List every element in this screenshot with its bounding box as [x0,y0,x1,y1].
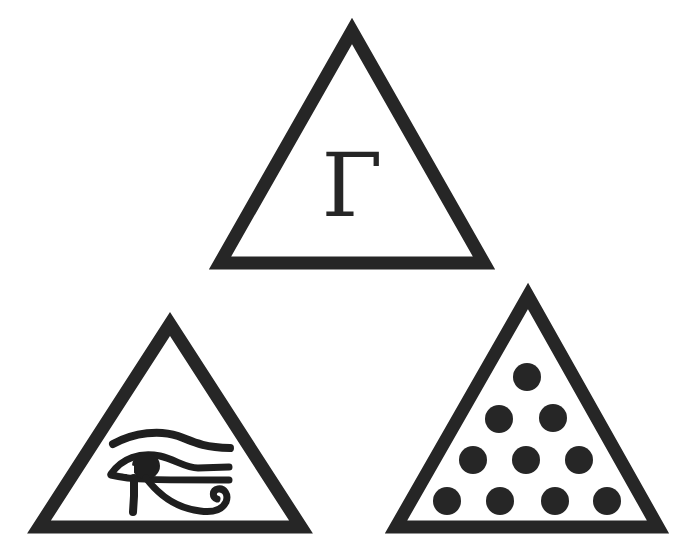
eye-of-horus-triangle [39,324,301,527]
gamma-letter: Γ [321,134,382,237]
dot-icon [433,487,461,515]
dot-icon [541,487,569,515]
tetractys-triangle [396,296,658,527]
dot-icon [513,363,541,391]
gamma-triangle: Γ [220,31,484,263]
dot-icon [485,405,513,433]
dot-icon [486,487,514,515]
dot-icon [593,487,621,515]
dot-icon [512,446,540,474]
dot-icon [539,404,567,432]
three-triangles-diagram: Γ [0,0,692,558]
dot-icon [565,446,593,474]
triangle-outline [396,296,658,527]
dot-icon [459,446,487,474]
